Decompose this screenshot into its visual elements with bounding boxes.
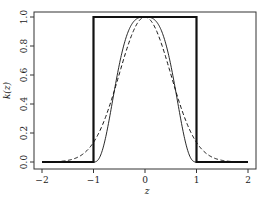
y-tick-label: 1.0 — [19, 10, 29, 25]
y-tick-label: 0.8 — [19, 39, 29, 54]
x-axis: −2−1012 — [35, 169, 251, 185]
y-tick-label: 0.0 — [19, 155, 29, 170]
kernel-chart: −2−1012 0.00.20.40.60.81.0 z k(z) — [0, 0, 263, 198]
y-tick-label: 0.2 — [19, 126, 29, 140]
y-axis: 0.00.20.40.60.81.0 — [19, 10, 34, 170]
x-tick-label: 2 — [245, 175, 251, 185]
series-gaussian-line — [42, 17, 248, 162]
series-box-line — [42, 17, 248, 162]
x-tick-label: −1 — [87, 175, 100, 185]
y-axis-label: k(z) — [2, 81, 12, 99]
x-axis-label: z — [144, 186, 150, 196]
x-tick-label: 0 — [142, 175, 148, 185]
plot-frame — [34, 12, 256, 169]
x-tick-label: −2 — [35, 175, 48, 185]
series-group — [42, 17, 248, 162]
y-tick-label: 0.6 — [19, 68, 29, 83]
series-tricube-line — [42, 17, 248, 162]
x-tick-label: 1 — [194, 175, 200, 185]
y-tick-label: 0.4 — [19, 97, 29, 112]
